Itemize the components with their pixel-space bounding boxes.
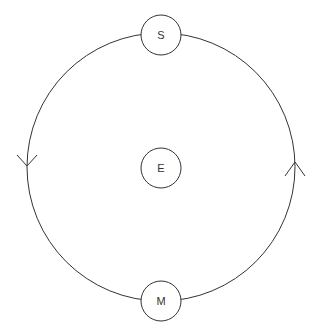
body-s: S (141, 15, 181, 55)
body-m: M (141, 281, 181, 321)
orbit-diagram: S E M (0, 0, 319, 336)
body-s-label: S (157, 29, 164, 41)
body-e: E (141, 148, 181, 188)
body-m-label: M (156, 295, 165, 307)
body-e-label: E (157, 162, 164, 174)
